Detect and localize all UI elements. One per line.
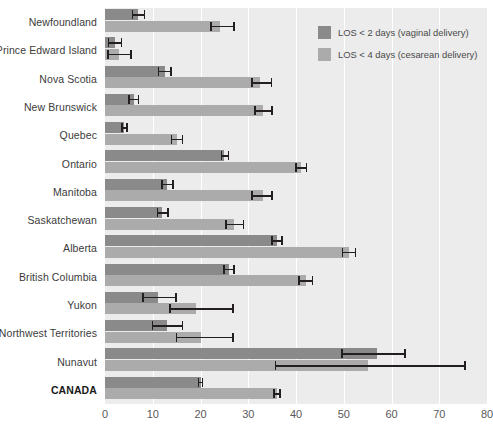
error-bar-cap-low [223, 265, 225, 274]
error-bar-cap-low [161, 180, 163, 189]
error-bar-ces [295, 163, 307, 172]
x-tick-label-30: 30 [242, 408, 254, 420]
error-bar-line [225, 224, 244, 226]
bar-vag [105, 150, 224, 161]
category-label-ontario: Ontario [0, 158, 97, 170]
error-bar-cap-high [233, 265, 235, 274]
category-labels: NewfoundlandPrince Edward IslandNova Sco… [0, 8, 103, 404]
error-bar-vag [161, 180, 173, 189]
x-tick-label-70: 70 [433, 408, 445, 420]
bar-group-row [105, 206, 487, 234]
bar-group-row [105, 93, 487, 121]
error-bar-ces [210, 22, 235, 31]
error-bar-cap-high [404, 349, 406, 358]
error-bar-cap-low [251, 191, 253, 200]
category-label-british-columbia: British Columbia [0, 271, 97, 283]
category-label-canada: CANADA [0, 384, 97, 396]
error-bar-cap-low [254, 106, 256, 115]
error-bar-line [152, 325, 184, 327]
bar-ces [105, 162, 301, 173]
error-bar-vag [341, 349, 405, 358]
error-bar-cap-high [175, 293, 177, 302]
bar-ces [105, 388, 277, 399]
error-bar-cap-low [221, 151, 223, 160]
error-bar-cap-high [306, 163, 308, 172]
bar-vag [105, 179, 167, 190]
x-axis: 01020304050607080 [105, 404, 487, 428]
error-bar-cap-low [107, 50, 109, 59]
legend-item-cesarean: LOS < 4 days (cesarean delivery) [318, 48, 490, 61]
error-bar-cap-low [158, 67, 160, 76]
error-bar-cap-low [342, 248, 344, 257]
error-bar-ces [176, 333, 234, 342]
error-bar-cap-high [279, 389, 281, 398]
bar-group-row [105, 347, 487, 375]
bar-group-row [105, 319, 487, 347]
category-label-newfoundland: Newfoundland [0, 16, 97, 28]
bar-group-row [105, 376, 487, 404]
error-bar-ces [273, 389, 281, 398]
error-bar-cap-high [232, 333, 234, 342]
error-bar-cap-high [172, 180, 174, 189]
error-bar-cap-high [271, 106, 273, 115]
error-bar-cap-high [464, 361, 466, 370]
error-bar-cap-high [233, 22, 235, 31]
error-bar-cap-low [142, 293, 144, 302]
error-bar-cap-high [167, 208, 169, 217]
error-bar-ces [254, 106, 273, 115]
category-label-northwest-territories: Northwest Territories [0, 327, 97, 339]
error-bar-cap-high [182, 321, 184, 330]
error-bar-vag [128, 95, 139, 104]
legend-label-cesarean: LOS < 4 days (cesarean delivery) [338, 49, 477, 60]
error-bar-cap-high [138, 95, 140, 104]
bar-ces [105, 77, 260, 88]
bar-ces [105, 190, 263, 201]
error-bar-line [169, 308, 233, 310]
error-bar-cap-low [298, 276, 300, 285]
bar-group-row [105, 149, 487, 177]
error-bar-cap-low [132, 10, 134, 19]
error-bar-line [210, 26, 235, 28]
error-bar-cap-high [130, 50, 132, 59]
error-bar-cap-high [312, 276, 314, 285]
error-bar-cap-low [171, 135, 173, 144]
error-bar-vag [108, 38, 122, 47]
error-bar-cap-low [295, 163, 297, 172]
error-bar-cap-low [198, 378, 200, 387]
error-bar-vag [271, 236, 282, 245]
error-bar-vag [157, 208, 169, 217]
x-tick-label-20: 20 [194, 408, 206, 420]
error-bar-vag [221, 151, 230, 160]
legend-swatch-cesarean [318, 48, 331, 61]
error-bar-cap-high [170, 67, 172, 76]
chart-root: NewfoundlandPrince Edward IslandNova Sco… [0, 0, 493, 435]
error-bar-cap-low [108, 38, 110, 47]
bar-ces [105, 219, 234, 230]
bar-group-row [105, 121, 487, 149]
bar-vag [105, 207, 162, 218]
error-bar-cap-high [281, 236, 283, 245]
bar-ces [105, 275, 306, 286]
category-label-nunavut: Nunavut [0, 356, 97, 368]
error-bar-vag [158, 67, 172, 76]
x-tick-label-50: 50 [338, 408, 350, 420]
bar-vag [105, 66, 165, 77]
error-bar-cap-low [121, 123, 123, 132]
bar-group-row [105, 291, 487, 319]
error-bar-cap-high [126, 123, 128, 132]
legend-item-vaginal: LOS < 2 days (vaginal delivery) [318, 26, 490, 39]
error-bar-cap-low [341, 349, 343, 358]
bar-ces [105, 105, 263, 116]
error-bar-ces [107, 50, 131, 59]
error-bar-vag [132, 10, 145, 19]
error-bar-cap-low [169, 304, 171, 313]
category-label-yukon: Yukon [0, 299, 97, 311]
bar-vag [105, 377, 201, 388]
error-bar-vag [121, 123, 128, 132]
category-label-nova-scotia: Nova Scotia [0, 73, 97, 85]
error-bar-cap-high [355, 248, 357, 257]
category-label-prince-edward-island: Prince Edward Island [0, 44, 97, 56]
error-bar-vag [223, 265, 234, 274]
error-bar-cap-high [144, 10, 146, 19]
error-bar-line [341, 353, 405, 355]
